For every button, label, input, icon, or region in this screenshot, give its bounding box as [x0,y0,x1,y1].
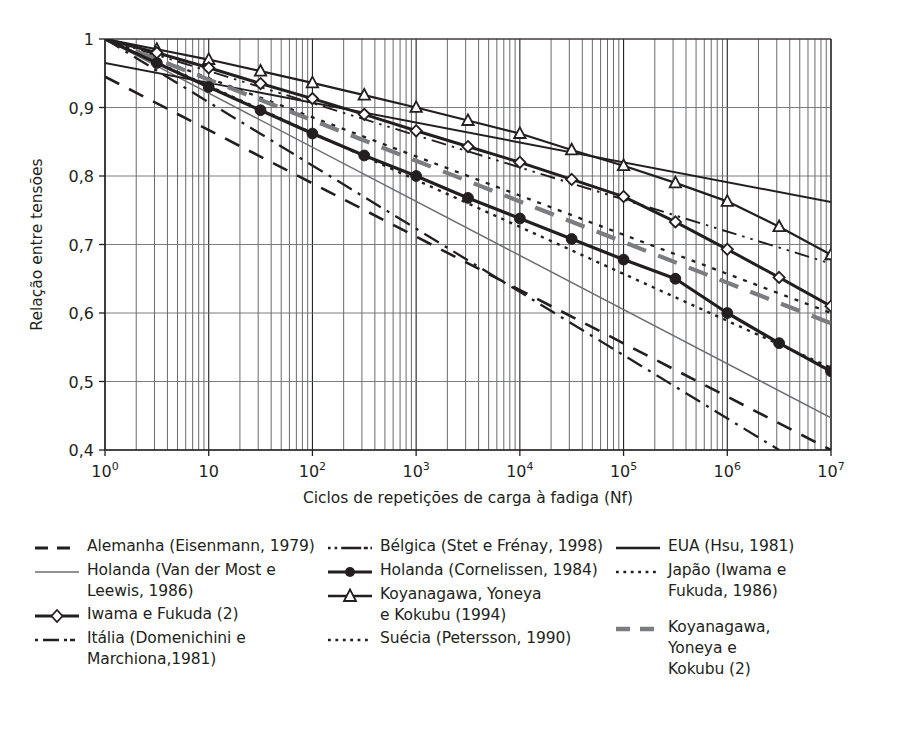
legend-suecia[interactable]: Suécia (Petersson, 1990) [327,628,615,650]
legend-marker-circle [345,567,355,577]
legend-alemanha-sample [34,537,80,558]
legend-koyanagawa-1994-sample [327,585,373,606]
marker-circle [670,273,681,284]
y-tick-label: 0,9 [69,99,94,118]
legend-koyanagawa-2-label: Koyanagawa, Yoneya e Kokubu (2) [668,617,770,680]
legend-sample-dashed-gray [615,618,661,639]
legend-italia-sample [34,629,80,650]
legend-sample-solid-thick [615,537,661,558]
marker-circle [774,338,785,349]
fatigue-chart: 0,40,50,60,70,80,91100101021031041051061… [0,0,901,530]
x-tick-label: 104 [506,460,533,481]
legend-alemanha[interactable]: Alemanha (Eisenmann, 1979) [34,536,327,558]
legend-sample-solid-circle [327,561,373,582]
legend-suecia-sample [327,629,373,650]
x-tick-label: 100 [91,460,118,481]
legend-column-3: EUA (Hsu, 1981)Japão (Iwama e Fukuda, 19… [615,536,885,682]
legend-marker-diamond [52,610,63,622]
chart-svg: 0,40,50,60,70,80,91100101021031041051061… [0,0,901,530]
y-tick-label: 0,4 [69,441,94,460]
legend-holanda-cornelissen-sample [327,561,373,582]
legend-belgica-label: Bélgica (Stet e Frénay, 1998) [380,536,603,557]
legend-italia[interactable]: Itália (Domenichini e Marchiona,1981) [34,628,327,670]
legend-belgica-sample [327,537,373,558]
chart-legend: Alemanha (Eisenmann, 1979)Holanda (Van d… [34,536,892,736]
legend-eua[interactable]: EUA (Hsu, 1981) [615,536,885,558]
legend-japao-sample [615,561,661,582]
legend-iwama-fukuda[interactable]: Iwama e Fukuda (2) [34,604,327,626]
marker-circle [359,150,370,161]
legend-koyanagawa-2[interactable]: Koyanagawa, Yoneya e Kokubu (2) [615,617,885,680]
y-tick-label: 0,6 [69,304,94,323]
legend-column-2: Bélgica (Stet e Frénay, 1998)Holanda (Co… [327,536,615,652]
x-axis-title: Ciclos de repetições de carga à fadiga (… [303,489,633,507]
legend-sample-solid-diamond [34,605,80,626]
legend-holanda-cornelissen[interactable]: Holanda (Cornelissen, 1984) [327,560,615,582]
legend-japao-label: Japão (Iwama e Fukuda, 1986) [668,560,786,602]
legend-iwama-fukuda-sample [34,605,80,626]
marker-circle [411,171,422,182]
legend-holanda-vandermost-sample [34,561,80,582]
marker-circle [618,254,629,265]
legend-sample-solid-triangle [327,585,373,606]
x-tick-label: 103 [402,460,429,481]
legend-sample-dashed [34,537,80,558]
y-tick-label: 1 [84,30,94,49]
x-tick-label: 102 [299,460,326,481]
y-tick-label: 0,5 [69,373,94,392]
legend-koyanagawa-2-sample [615,618,661,639]
legend-japao[interactable]: Japão (Iwama e Fukuda, 1986) [615,560,885,602]
marker-circle [463,193,474,204]
x-axis-ticks: 10010102103104105106107 [91,450,844,481]
legend-eua-sample [615,537,661,558]
legend-sample-dash-dot-dot [327,537,373,558]
x-tick-label: 106 [714,460,741,481]
legend-sample-dotted-fine [615,561,661,582]
marker-circle [307,128,318,139]
legend-sample-dotted-fine [327,629,373,650]
marker-circle [566,234,577,245]
marker-circle [826,366,837,377]
y-axis-title: Relação entre tensões [28,158,46,330]
marker-circle [203,82,214,93]
legend-holanda-vandermost-label: Holanda (Van der Most e Leewis, 1986) [87,560,276,602]
legend-italia-label: Itália (Domenichini e Marchiona,1981) [87,628,246,670]
marker-circle [514,213,525,224]
x-tick-label: 10 [199,462,219,481]
marker-circle [722,308,733,319]
y-axis-ticks: 0,40,50,60,70,80,91 [69,30,105,460]
y-tick-label: 0,7 [69,236,94,255]
legend-eua-label: EUA (Hsu, 1981) [668,536,794,557]
legend-koyanagawa-1994[interactable]: Koyanagawa, Yoneya e Kokubu (1994) [327,584,615,626]
legend-alemanha-label: Alemanha (Eisenmann, 1979) [87,536,315,557]
legend-koyanagawa-1994-label: Koyanagawa, Yoneya e Kokubu (1994) [380,584,541,626]
x-tick-label: 107 [817,460,844,481]
x-tick-label: 105 [610,460,637,481]
marker-circle [151,58,162,69]
legend-holanda-vandermost[interactable]: Holanda (Van der Most e Leewis, 1986) [34,560,327,602]
legend-suecia-label: Suécia (Petersson, 1990) [380,628,571,649]
legend-holanda-cornelissen-label: Holanda (Cornelissen, 1984) [380,560,598,581]
legend-column-1: Alemanha (Eisenmann, 1979)Holanda (Van d… [34,536,327,672]
y-tick-label: 0,8 [69,167,94,186]
legend-sample-solid-thin-gray [34,561,80,582]
legend-belgica[interactable]: Bélgica (Stet e Frénay, 1998) [327,536,615,558]
legend-iwama-fukuda-label: Iwama e Fukuda (2) [87,604,238,625]
marker-circle [255,105,266,116]
figure-root: 0,40,50,60,70,80,91100101021031041051061… [0,0,901,754]
legend-sample-dash-dot [34,629,80,650]
